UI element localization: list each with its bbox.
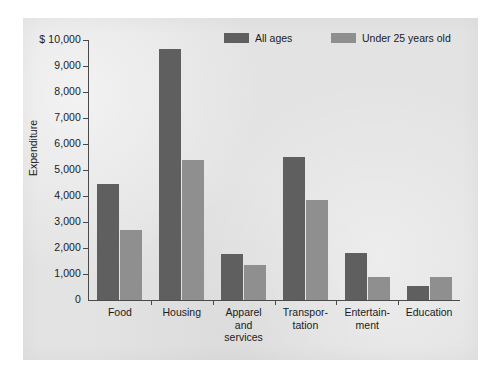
bar-group — [97, 40, 142, 300]
y-axis-tick-label: $ 10,000 — [19, 33, 81, 45]
y-axis-tick-label: 0 — [19, 293, 81, 305]
legend-item: Under 25 years old — [331, 31, 451, 45]
bar — [221, 254, 243, 300]
bar-group — [159, 40, 204, 300]
y-axis-tick-labels: 01,0002,0003,0004,0005,0006,0007,0008,00… — [13, 0, 81, 378]
bar — [306, 200, 328, 300]
bar — [244, 265, 266, 300]
chart-figure: 01,0002,0003,0004,0005,0006,0007,0008,00… — [0, 0, 499, 378]
x-axis-tick-mark — [151, 300, 152, 305]
x-axis-tick-label: Entertain- ment — [336, 306, 398, 331]
y-axis-title: Expenditure — [27, 93, 39, 203]
legend-swatch — [331, 33, 356, 43]
bar — [120, 230, 142, 300]
legend-swatch — [224, 33, 249, 43]
bar-group — [283, 40, 328, 300]
legend-label: Under 25 years old — [362, 32, 451, 44]
x-axis-tick-label: Housing — [151, 306, 213, 319]
bar — [407, 286, 429, 300]
x-axis-tick-label: Transpor- tation — [275, 306, 337, 331]
bar — [97, 184, 119, 300]
bar-group — [407, 40, 452, 300]
bar — [345, 253, 367, 300]
y-axis-tick-label: 1,000 — [19, 267, 81, 279]
x-axis-tick-label: Apparel and services — [213, 306, 275, 344]
bar — [430, 277, 452, 300]
y-axis-tick-label: 9,000 — [19, 59, 81, 71]
x-axis-tick-label: Education — [398, 306, 460, 319]
legend-label: All ages — [255, 32, 292, 44]
x-axis-tick-mark — [398, 300, 399, 305]
bar — [283, 157, 305, 300]
x-axis-tick-mark — [336, 300, 337, 305]
bar — [368, 277, 390, 300]
bar-series-area — [89, 40, 460, 300]
bar — [182, 160, 204, 300]
bar — [159, 49, 181, 300]
bar-group — [345, 40, 390, 300]
x-axis-tick-mark — [213, 300, 214, 305]
x-axis-tick-label: Food — [89, 306, 151, 319]
bar-group — [221, 40, 266, 300]
x-axis-tick-mark — [275, 300, 276, 305]
y-axis-tick-label: 3,000 — [19, 215, 81, 227]
y-axis-tick-label: 2,000 — [19, 241, 81, 253]
legend-item: All ages — [224, 31, 292, 45]
